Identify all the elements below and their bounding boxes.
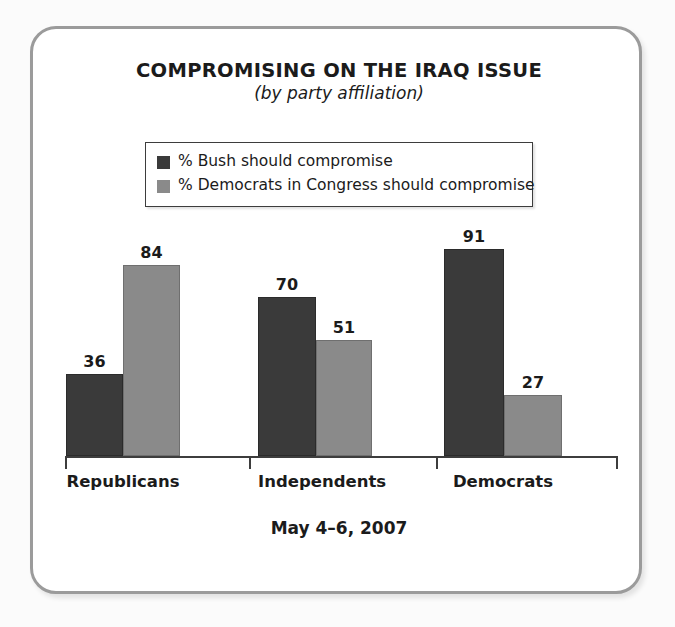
bar-value-label: 36: [83, 354, 105, 370]
bar-independents-bush[interactable]: 70: [258, 297, 316, 456]
bar-independents-democrats[interactable]: 51: [316, 340, 372, 456]
bar-value-label: 27: [522, 375, 544, 391]
bar-value-label: 84: [140, 245, 162, 261]
bar-value-label: 51: [333, 320, 355, 336]
bar-republicans-democrats[interactable]: 84: [123, 265, 180, 456]
bar-value-label: 70: [276, 277, 298, 293]
axis-tick-sep-2: [436, 458, 438, 469]
plot-area: 3684Republicans7051Independents9127Democ…: [33, 29, 645, 597]
bar-democrats-bush[interactable]: 91: [444, 249, 504, 456]
chart-footer-date: May 4–6, 2007: [33, 518, 645, 538]
x-axis-line: [65, 456, 618, 458]
x-axis-label-republicans: Republicans: [66, 474, 180, 491]
chart-card: COMPROMISING ON THE IRAQ ISSUE (by party…: [30, 26, 642, 594]
x-axis-label-independents: Independents: [258, 474, 372, 491]
bar-republicans-bush[interactable]: 36: [66, 374, 123, 456]
bar-value-label: 91: [463, 229, 485, 245]
axis-tick-sep-1: [249, 458, 251, 469]
x-axis-label-democrats: Democrats: [444, 474, 562, 491]
axis-tick-start: [65, 458, 67, 469]
bar-democrats-democrats[interactable]: 27: [504, 395, 562, 456]
axis-tick-end: [616, 458, 618, 469]
